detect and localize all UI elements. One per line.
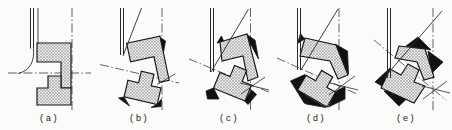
stage-drawing-a: (a) (5, 0, 93, 128)
figure-canvas: (a)(b)(c)(d)(e) (0, 0, 452, 130)
stage-panel-e: (e) (362, 0, 450, 128)
stage-panel-d: (d) (272, 0, 360, 128)
stage-drawing-d: (d) (272, 0, 360, 128)
stage-drawing-b: (b) (95, 0, 183, 128)
lower-joint-piece (214, 66, 252, 102)
panel-label-c: (c) (219, 114, 239, 124)
panel-label-e: (e) (396, 114, 416, 124)
stage-panel-c: (c) (185, 0, 273, 128)
panel-label-b: (b) (129, 114, 149, 124)
stage-drawing-e: (e) (362, 0, 450, 128)
lower-joint-piece (124, 71, 161, 105)
stage-drawing-c: (c) (185, 0, 273, 128)
stage-panel-a: (a) (5, 0, 93, 128)
swing-arc (18, 49, 34, 74)
panel-label-d: (d) (306, 114, 326, 124)
stage-panel-b: (b) (95, 0, 183, 128)
panel-label-a: (a) (39, 114, 59, 124)
